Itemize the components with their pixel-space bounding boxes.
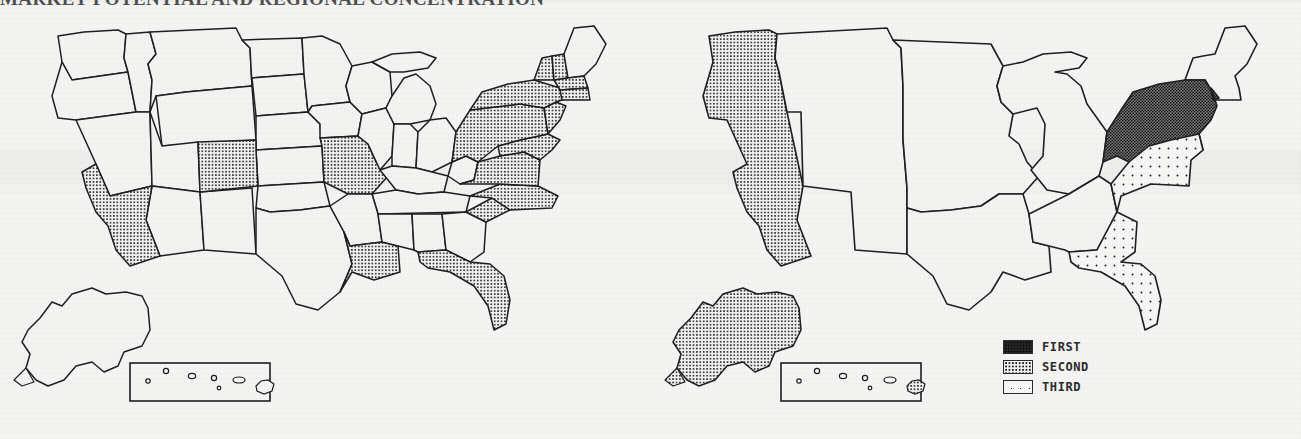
legend-item-third: THIRD [1003, 378, 1143, 396]
region-level-map [651, 0, 1301, 439]
scanned-page: MARKET POTENTIAL AND REGIONAL CONCENTRAT… [0, 0, 1301, 439]
state-level-map [0, 0, 650, 439]
legend-label-first: FIRST [1042, 341, 1081, 353]
legend-label-second: SECOND [1042, 361, 1089, 373]
legend-item-second: SECOND [1003, 358, 1143, 376]
legend-swatch-third-icon [1003, 380, 1033, 394]
legend-item-first: FIRST [1003, 338, 1143, 356]
legend-swatch-second-icon [1003, 360, 1033, 374]
legend-swatch-first-icon [1003, 340, 1033, 354]
legend-label-third: THIRD [1042, 381, 1081, 393]
rank-legend: FIRST SECOND THIRD [1003, 338, 1143, 398]
